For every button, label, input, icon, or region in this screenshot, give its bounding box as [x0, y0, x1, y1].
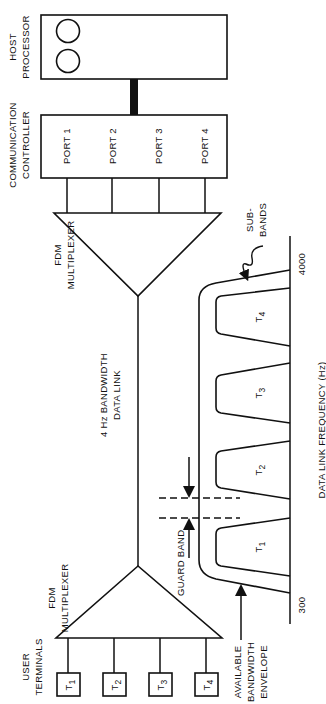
communication-controller: COMMUNICATION CONTROLLER PORT 1 PORT 2 P… [7, 102, 227, 188]
svg-text:MULTIPLEXER: MULTIPLEXER [59, 564, 70, 633]
sub-bands-callout-arrow [243, 246, 263, 276]
link-label-1: 4 Hz BANDWIDTH [98, 353, 109, 437]
port-2-label: PORT 2 [107, 128, 118, 164]
controller-label-1: COMMUNICATION [7, 102, 18, 188]
bandwidth-envelope [199, 270, 290, 593]
subband-2: T2 [253, 464, 267, 475]
axis-label: DATA LINK FREQUENCY (Hz) [316, 361, 326, 498]
svg-text:FDM: FDM [46, 587, 57, 608]
subband-4: T4 [253, 311, 267, 322]
subband-3: T3 [253, 387, 267, 398]
terminal-3: T3 [155, 679, 169, 690]
terminal-2: T2 [109, 679, 123, 690]
subband-1: T1 [253, 541, 267, 552]
fdm-multiplexer-bottom: FDM MULTIPLEXER [46, 564, 222, 638]
port-1-label: PORT 1 [61, 128, 72, 164]
user-terminals: USER TERMINALS T1 T2 T3 T4 [20, 638, 218, 696]
port-4-label: PORT 4 [199, 128, 210, 164]
port-3-label: PORT 3 [153, 128, 164, 164]
host-label-1: HOST [7, 33, 18, 61]
link-label-2: DATA LINK [111, 370, 122, 420]
freq-high-label: 4000 [296, 253, 307, 275]
svg-text:SUB-: SUB- [244, 208, 255, 232]
frequency-spectrum: T4 T3 T2 T1 GUARD BAND 300 4000 DATA LIN… [159, 203, 326, 702]
disk-icon [57, 20, 80, 43]
svg-text:TERMINALS: TERMINALS [33, 638, 44, 695]
fdm-multiplexer-top: FDM MULTIPLEXER [52, 213, 221, 296]
terminal-lines [68, 638, 206, 673]
terminal-4: T4 [201, 679, 215, 690]
svg-text:AVAILABLE: AVAILABLE [232, 646, 243, 699]
host-processor: HOST PROCESSOR [7, 15, 227, 79]
svg-text:BANDS: BANDS [257, 203, 268, 237]
port-lines [67, 178, 205, 213]
system-bus [130, 79, 138, 115]
freq-low-label: 300 [296, 597, 307, 614]
controller-label-2: CONTROLLER [20, 111, 31, 179]
svg-text:MULTIPLEXER: MULTIPLEXER [65, 221, 76, 290]
host-label-2: PROCESSOR [20, 15, 31, 78]
terminal-1: T1 [63, 679, 77, 690]
fdm-diagram: HOST PROCESSOR COMMUNICATION CONTROLLER … [0, 0, 326, 704]
svg-text:USER: USER [20, 653, 31, 681]
svg-text:BANDWIDTH: BANDWIDTH [245, 642, 256, 702]
svg-text:FDM: FDM [52, 244, 63, 265]
disk-icon [57, 50, 80, 73]
svg-text:ENVELOPE: ENVELOPE [258, 645, 269, 699]
guard-band-label: GUARD BAND [175, 530, 186, 596]
